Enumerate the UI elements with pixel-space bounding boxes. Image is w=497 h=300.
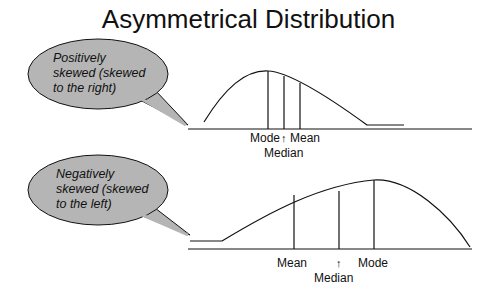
callout-line: to the left) [56,197,148,212]
negative-skew-chart [188,180,472,249]
diagram-canvas [0,0,497,300]
callout-line: Positively [53,51,145,66]
arrow-up-icon: ↑ [281,132,287,144]
label-mean: Mean [277,256,307,270]
label-mean: Mean [290,131,320,145]
curve [190,180,470,247]
curve [204,71,404,125]
label-median: Median [264,146,303,160]
label-mode: Mode [250,131,280,145]
callout-line: skewed (skewed [56,182,148,197]
arrow-up-icon: ↑ [336,257,342,269]
callout-line: to the right) [53,81,145,96]
callout-line: Negatively [56,167,148,182]
label-mode: Mode [358,256,388,270]
positive-skew-chart [188,71,472,129]
callout-text-positive: Positively skewed (skewed to the right) [53,51,145,96]
label-median: Median [314,271,353,285]
callout-line: skewed (skewed [53,66,145,81]
callout-text-negative: Negatively skewed (skewed to the left) [56,167,148,212]
